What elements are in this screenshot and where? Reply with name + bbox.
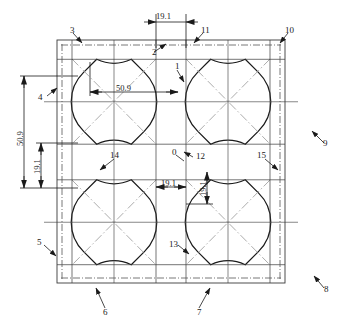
leader-4 xyxy=(47,88,57,96)
callout-label-3: 3 xyxy=(70,26,75,35)
leader-7 xyxy=(199,288,210,308)
leader-lines xyxy=(44,33,324,308)
callout-label-1: 1 xyxy=(175,62,180,71)
callout-label-7: 7 xyxy=(197,308,202,317)
leader-1 xyxy=(177,70,184,82)
diagonal-centerlines xyxy=(72,59,270,265)
callout-label-8: 8 xyxy=(324,285,329,294)
dimension-mid-50-9 xyxy=(90,62,178,96)
leader-14 xyxy=(100,159,114,170)
leader-0 xyxy=(176,155,184,161)
dimension-text-left-50-9: 50.9 xyxy=(16,131,25,146)
callout-label-4: 4 xyxy=(38,93,43,102)
technical-drawing-canvas xyxy=(0,0,338,327)
dimension-text-center-19-1: 19.1 xyxy=(161,179,176,188)
callout-label-9: 9 xyxy=(323,139,328,148)
dimension-text-mid-50-9: 50.9 xyxy=(116,84,131,93)
callout-label-12: 12 xyxy=(196,152,205,161)
callout-label-13: 13 xyxy=(169,240,178,249)
callout-label-11: 11 xyxy=(201,26,210,35)
callout-label-15: 15 xyxy=(257,151,266,160)
dimension-top-19-1 xyxy=(144,14,198,48)
star-cell-group xyxy=(71,59,271,264)
leader-15 xyxy=(265,159,278,170)
callout-label-6: 6 xyxy=(103,308,108,317)
dimension-text-right-19-1: 19.1 xyxy=(199,181,208,196)
dimension-left-50-9 xyxy=(20,76,78,188)
leader-8 xyxy=(314,276,324,288)
dimension-text-top-19-1: 19.1 xyxy=(156,12,171,21)
dimension-text-left-19-1: 19.1 xyxy=(33,159,42,174)
leader-13 xyxy=(178,245,189,254)
leader-12 xyxy=(184,152,193,157)
leader-6 xyxy=(96,288,105,308)
callout-label-5: 5 xyxy=(37,238,42,247)
leader-5 xyxy=(44,245,56,256)
callout-label-10: 10 xyxy=(285,26,294,35)
callout-label-0: 0 xyxy=(172,148,177,157)
callout-label-2: 2 xyxy=(152,48,157,57)
callout-label-14: 14 xyxy=(110,151,119,160)
